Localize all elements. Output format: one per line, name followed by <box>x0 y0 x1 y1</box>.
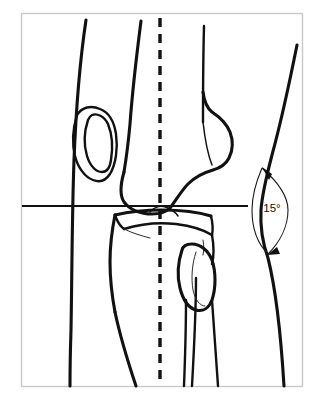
angle-label: 15° <box>263 202 280 214</box>
figure-root: 15° <box>0 0 326 401</box>
knee-diagram-svg: 15° <box>0 0 326 401</box>
figure-frame <box>22 14 303 387</box>
femur-shaft-lateral-line <box>203 26 204 122</box>
